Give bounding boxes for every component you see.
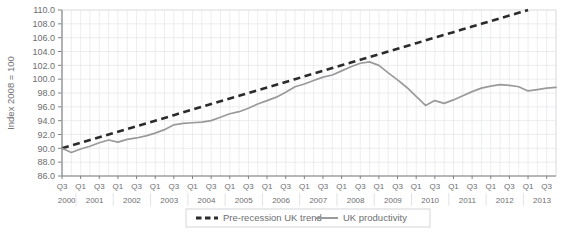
x-axis-quarter-label: Q3 — [57, 182, 68, 191]
x-axis-quarter-label: Q3 — [467, 182, 478, 191]
x-axis-quarter-label: Q1 — [150, 182, 161, 191]
y-axis-tick-label: 98.0 — [37, 88, 55, 98]
y-axis-title: Index 2008 = 100 — [5, 56, 16, 130]
y-axis-tick-label: 94.0 — [37, 116, 55, 126]
y-axis-tick-label: 104.0 — [32, 47, 55, 57]
x-axis-quarter-label: Q1 — [299, 182, 310, 191]
x-axis-year-label: 2007 — [309, 196, 327, 205]
y-axis-tick-label: 106.0 — [32, 33, 55, 43]
y-axis-tick-label: 96.0 — [37, 102, 55, 112]
legend-label-trend[interactable]: Pre-recession UK trend — [223, 212, 322, 223]
x-axis-year-label: 2009 — [384, 196, 402, 205]
x-axis-quarter-label: Q1 — [448, 182, 459, 191]
x-axis-quarter-label: Q3 — [169, 182, 180, 191]
legend-label-productivity[interactable]: UK productivity — [343, 212, 407, 223]
y-axis-tick-label: 108.0 — [32, 19, 55, 29]
x-axis-quarter-label: Q1 — [523, 182, 534, 191]
x-axis-year-label: 2008 — [347, 196, 365, 205]
x-axis-year-label: 2006 — [272, 196, 290, 205]
y-axis-tick-label: 90.0 — [37, 144, 55, 154]
y-axis-tick-label: 92.0 — [37, 130, 55, 140]
y-axis-tick-label: 102.0 — [32, 61, 55, 71]
x-axis-year-label: 2003 — [160, 196, 178, 205]
x-axis-year-label: 2004 — [198, 196, 216, 205]
y-axis-tick-label: 100.0 — [32, 74, 55, 84]
x-axis-quarter-label: Q1 — [485, 182, 496, 191]
x-axis-quarter-label: Q3 — [206, 182, 217, 191]
chart-container: 86.088.090.092.094.096.098.0100.0102.010… — [0, 0, 570, 239]
x-axis-quarter-label: Q3 — [131, 182, 142, 191]
x-axis-quarter-label: Q1 — [113, 182, 124, 191]
x-axis-quarter-label: Q3 — [94, 182, 105, 191]
x-axis-year-label: 2011 — [459, 196, 477, 205]
x-axis-quarter-label: Q3 — [243, 182, 254, 191]
x-axis-quarter-label: Q3 — [392, 182, 403, 191]
x-axis-year-label: 2002 — [123, 196, 141, 205]
x-axis-quarter-label: Q1 — [187, 182, 198, 191]
x-axis-quarter-label: Q1 — [411, 182, 422, 191]
x-axis-quarter-label: Q3 — [318, 182, 329, 191]
y-axis-tick-label: 86.0 — [37, 171, 55, 181]
x-axis-year-label: 2010 — [421, 196, 439, 205]
x-axis-quarter-label: Q3 — [355, 182, 366, 191]
x-axis-quarter-label: Q3 — [429, 182, 440, 191]
productivity-line-chart: 86.088.090.092.094.096.098.0100.0102.010… — [0, 0, 570, 239]
x-axis-year-label: 2012 — [496, 196, 514, 205]
x-axis-quarter-label: Q3 — [541, 182, 552, 191]
x-axis-quarter-label: Q1 — [75, 182, 86, 191]
x-axis-quarter-label: Q3 — [504, 182, 515, 191]
x-axis-quarter-label: Q1 — [336, 182, 347, 191]
x-axis-quarter-label: Q1 — [374, 182, 385, 191]
x-axis-year-label: 2001 — [86, 196, 104, 205]
x-axis-year-label: 2005 — [235, 196, 253, 205]
x-axis-year-label: 2013 — [533, 196, 551, 205]
x-axis-quarter-label: Q1 — [224, 182, 235, 191]
x-axis-year-label: 2000 — [58, 196, 76, 205]
x-axis-quarter-label: Q1 — [262, 182, 273, 191]
y-axis-tick-label: 110.0 — [33, 5, 55, 15]
x-axis-quarter-label: Q3 — [280, 182, 291, 191]
y-axis-tick-label: 88.0 — [37, 157, 55, 167]
